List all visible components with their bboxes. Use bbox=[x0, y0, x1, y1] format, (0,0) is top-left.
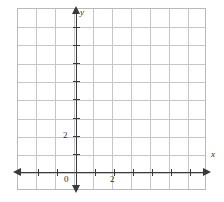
grid-line-horizontal bbox=[18, 82, 205, 83]
y-axis-line bbox=[76, 12, 77, 188]
y-axis-tick bbox=[73, 136, 80, 137]
y-axis-tick bbox=[73, 27, 80, 28]
grid-line-vertical bbox=[93, 9, 94, 189]
y-axis-tick bbox=[73, 81, 80, 82]
grid-plate bbox=[17, 8, 206, 190]
grid-line-horizontal bbox=[18, 119, 205, 120]
x-axis-tick bbox=[133, 169, 134, 176]
grid-line-vertical bbox=[169, 9, 170, 189]
x-axis-tick bbox=[57, 169, 58, 176]
x-axis-name-label: x bbox=[211, 150, 215, 159]
y-axis-name-label: y bbox=[80, 8, 84, 17]
y-axis-down-arrow-icon bbox=[72, 185, 80, 193]
grid-line-horizontal bbox=[18, 45, 205, 46]
y-axis-up-arrow-icon bbox=[72, 6, 80, 14]
x-axis-right-arrow-icon bbox=[203, 168, 211, 176]
y-axis-tick-label-2: 2 bbox=[63, 131, 68, 140]
x-axis-tick bbox=[152, 169, 153, 176]
grid-line-horizontal bbox=[18, 64, 205, 65]
coordinate-graph: 0 2 2 x y bbox=[0, 0, 224, 202]
y-axis-tick bbox=[73, 154, 80, 155]
y-axis-tick bbox=[73, 118, 80, 119]
x-axis-tick-label-2: 2 bbox=[110, 175, 115, 184]
grid-line-vertical bbox=[131, 9, 132, 189]
x-axis-tick bbox=[95, 169, 96, 176]
grid-line-vertical bbox=[55, 9, 56, 189]
x-axis-tick bbox=[171, 169, 172, 176]
y-axis-tick bbox=[73, 63, 80, 64]
x-axis-line bbox=[20, 172, 206, 173]
x-axis-tick bbox=[190, 169, 191, 176]
y-axis-tick bbox=[73, 45, 80, 46]
grid-line-vertical bbox=[188, 9, 189, 189]
grid-line-vertical bbox=[112, 9, 113, 189]
grid-line-horizontal bbox=[18, 155, 205, 156]
grid-line-vertical bbox=[150, 9, 151, 189]
x-axis-left-arrow-icon bbox=[13, 168, 21, 176]
origin-label: 0 bbox=[64, 175, 69, 184]
x-axis-tick bbox=[38, 169, 39, 176]
y-axis-tick bbox=[73, 99, 80, 100]
grid-line-vertical bbox=[36, 9, 37, 189]
grid-line-horizontal bbox=[18, 27, 205, 28]
grid-line-horizontal bbox=[18, 100, 205, 101]
grid-line-horizontal bbox=[18, 137, 205, 138]
